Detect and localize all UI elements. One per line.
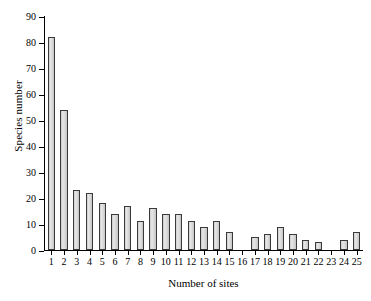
x-tick-label: 5 <box>100 256 105 268</box>
x-tick-label: 19 <box>275 256 285 268</box>
bar-slot <box>99 16 106 250</box>
bar <box>99 203 106 250</box>
bar-slot <box>226 16 233 250</box>
bar <box>60 110 67 250</box>
x-tick-label: 1 <box>49 256 54 268</box>
bar-slot <box>86 16 93 250</box>
y-tick-label: 50 <box>26 114 36 127</box>
x-tick-label: 23 <box>326 256 336 268</box>
bar-slot <box>238 16 245 250</box>
y-tick: 80 <box>39 43 44 44</box>
bar <box>200 227 207 250</box>
bar-chart: Species number 0102030405060708090 12345… <box>0 0 371 301</box>
bar-slot <box>353 16 360 250</box>
bar-slot <box>162 16 169 250</box>
bar <box>213 221 220 250</box>
bar-slot <box>264 16 271 250</box>
bar-slot <box>328 16 335 250</box>
bar <box>124 206 131 250</box>
x-tick-label: 17 <box>250 256 260 268</box>
x-tick-label: 24 <box>339 256 349 268</box>
x-tick-label: 21 <box>301 256 311 268</box>
y-tick-label: 90 <box>26 10 36 23</box>
bar <box>162 214 169 250</box>
y-tick: 90 <box>39 17 44 18</box>
x-axis-title: Number of sites <box>44 277 363 289</box>
y-tick-label: 30 <box>26 166 36 179</box>
bar <box>315 242 322 250</box>
bar <box>302 240 309 250</box>
y-tick: 30 <box>39 173 44 174</box>
y-tick: 10 <box>39 225 44 226</box>
x-tick-label: 7 <box>125 256 130 268</box>
y-tick-label: 60 <box>26 88 36 101</box>
y-tick: 50 <box>39 121 44 122</box>
y-tick-label: 20 <box>26 192 36 205</box>
bar-slot <box>124 16 131 250</box>
y-tick-label: 40 <box>26 140 36 153</box>
x-tick-label: 15 <box>224 256 234 268</box>
x-tick-label: 6 <box>112 256 117 268</box>
bar-slot <box>149 16 156 250</box>
bar <box>188 221 195 250</box>
bar-slot <box>251 16 258 250</box>
bar <box>353 232 360 250</box>
bar-slot <box>137 16 144 250</box>
bar <box>264 234 271 250</box>
bar-slot <box>315 16 322 250</box>
bar-slot <box>73 16 80 250</box>
bar-slot <box>340 16 347 250</box>
bar <box>73 190 80 250</box>
bar-slot <box>175 16 182 250</box>
y-tick-label: 0 <box>31 244 36 257</box>
bar-slot <box>188 16 195 250</box>
x-tick-label: 12 <box>186 256 196 268</box>
y-tick-label: 10 <box>26 218 36 231</box>
x-tick-label: 3 <box>74 256 79 268</box>
bar <box>226 232 233 250</box>
x-tick-label: 25 <box>352 256 362 268</box>
x-tick-label: 14 <box>212 256 222 268</box>
bar-slot <box>277 16 284 250</box>
bar-slot <box>213 16 220 250</box>
bar <box>111 214 118 250</box>
bar <box>149 208 156 250</box>
y-tick: 40 <box>39 147 44 148</box>
x-tick-label: 4 <box>87 256 92 268</box>
plot-area: 0102030405060708090 <box>44 16 363 251</box>
x-tick-label: 9 <box>151 256 156 268</box>
bar-slot <box>111 16 118 250</box>
x-tick-label: 16 <box>237 256 247 268</box>
x-axis-tick-labels: 1234567891011121314151617181920212223242… <box>44 251 363 273</box>
x-tick-label: 18 <box>263 256 273 268</box>
bar-slot <box>302 16 309 250</box>
bar <box>175 214 182 250</box>
y-tick: 60 <box>39 95 44 96</box>
y-tick-label: 70 <box>26 62 36 75</box>
x-tick-label: 22 <box>313 256 323 268</box>
bar <box>340 240 347 250</box>
bar <box>251 237 258 250</box>
bar <box>277 227 284 250</box>
x-tick-label: 20 <box>288 256 298 268</box>
y-tick: 20 <box>39 199 44 200</box>
x-tick-label: 11 <box>174 256 184 268</box>
bar-series <box>45 16 363 250</box>
y-axis-title: Species number <box>12 46 24 186</box>
bar <box>289 234 296 250</box>
bar-slot <box>289 16 296 250</box>
y-tick: 70 <box>39 69 44 70</box>
bar-slot <box>48 16 55 250</box>
x-tick-label: 13 <box>199 256 209 268</box>
x-tick-label: 8 <box>138 256 143 268</box>
bar-slot <box>200 16 207 250</box>
bar <box>86 193 93 250</box>
bar <box>48 37 55 250</box>
y-tick-label: 80 <box>26 36 36 49</box>
x-tick-label: 2 <box>62 256 67 268</box>
bar <box>137 221 144 250</box>
bar-slot <box>60 16 67 250</box>
x-tick-label: 10 <box>161 256 171 268</box>
